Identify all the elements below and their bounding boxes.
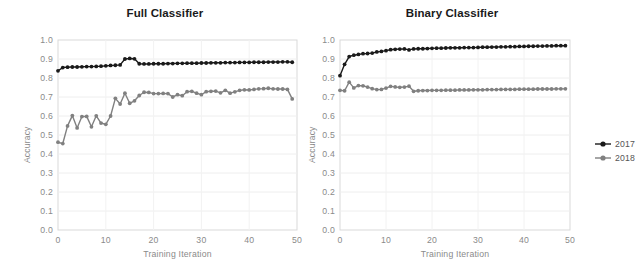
data-point	[499, 88, 503, 92]
data-point	[204, 90, 208, 94]
data-point	[554, 87, 558, 91]
data-point	[214, 61, 218, 65]
data-point	[435, 46, 439, 50]
data-point	[104, 64, 108, 68]
y-axis-tick-full: 0.0	[31, 225, 53, 235]
data-point	[550, 87, 554, 91]
data-point	[347, 55, 351, 59]
x-axis-tick-binary: 50	[560, 235, 580, 245]
data-point	[94, 65, 98, 69]
y-axis-tick-binary: 0.0	[313, 225, 335, 235]
data-point	[439, 46, 443, 50]
y-axis-tick-full: 0.5	[31, 130, 53, 140]
data-point	[559, 87, 563, 91]
legend-item-2018[interactable]: 2018	[594, 151, 641, 165]
data-point	[490, 88, 494, 92]
data-point	[223, 61, 227, 65]
data-point	[564, 87, 568, 91]
data-point	[156, 62, 160, 66]
data-point	[352, 53, 356, 57]
data-point	[412, 47, 416, 51]
data-point	[228, 61, 232, 65]
data-point	[527, 87, 531, 91]
data-point	[161, 62, 165, 66]
legend-item-2017[interactable]: 2017	[594, 137, 641, 151]
data-point	[171, 62, 175, 66]
x-axis-tick-binary: 30	[468, 235, 488, 245]
data-point	[200, 61, 204, 65]
data-point	[518, 45, 522, 49]
data-point	[281, 87, 285, 91]
data-point	[262, 87, 266, 91]
data-point	[142, 62, 146, 66]
data-point	[462, 46, 466, 50]
data-point	[252, 60, 256, 64]
data-point	[527, 44, 531, 48]
y-axis-tick-full: 0.3	[31, 168, 53, 178]
data-point	[75, 126, 79, 130]
data-point	[142, 90, 146, 94]
data-point	[90, 65, 94, 69]
data-point	[133, 57, 137, 61]
data-point	[109, 114, 113, 118]
data-point	[407, 84, 411, 88]
data-point	[472, 88, 476, 92]
data-point	[61, 142, 65, 146]
data-point	[412, 89, 416, 93]
data-point	[257, 60, 261, 64]
data-point	[243, 61, 247, 65]
y-axis-tick-full: 0.6	[31, 111, 53, 121]
data-point	[85, 114, 89, 118]
data-point	[504, 45, 508, 49]
data-point	[109, 64, 113, 68]
data-point	[439, 88, 443, 92]
data-point	[190, 61, 194, 65]
data-point	[458, 88, 462, 92]
data-point	[545, 44, 549, 48]
chart-title-binary-classifier: Binary Classifier	[300, 7, 592, 19]
data-point	[156, 92, 160, 96]
x-axis-tick-full: 20	[144, 235, 164, 245]
data-point	[70, 114, 74, 118]
data-point	[444, 46, 448, 50]
data-point	[85, 65, 89, 69]
data-point	[209, 89, 213, 93]
data-point	[128, 101, 132, 105]
data-point	[495, 88, 499, 92]
legend-marker-icon	[594, 153, 612, 163]
data-point	[113, 63, 117, 67]
y-axis-tick-binary: 0.6	[313, 111, 335, 121]
data-point	[449, 46, 453, 50]
data-point	[495, 45, 499, 49]
data-point	[531, 87, 535, 91]
data-point	[271, 87, 275, 91]
data-point	[276, 60, 280, 64]
data-point	[228, 91, 232, 95]
data-point	[137, 94, 141, 98]
data-point	[161, 91, 165, 95]
data-point	[209, 61, 213, 65]
x-axis-label-binary-classifier: Training Iteration	[340, 249, 570, 259]
data-point	[384, 86, 388, 90]
x-axis-tick-binary: 0	[330, 235, 350, 245]
data-point	[513, 88, 517, 92]
figure-container: Full Classifier Accuracy Training Iterat…	[0, 0, 641, 278]
data-point	[180, 94, 184, 98]
data-point	[233, 61, 237, 65]
x-axis-tick-full: 10	[96, 235, 116, 245]
data-point	[247, 61, 251, 65]
data-point	[416, 89, 420, 93]
data-point	[467, 88, 471, 92]
y-axis-tick-binary: 0.7	[313, 92, 335, 102]
data-point	[407, 48, 411, 52]
x-axis-tick-binary: 40	[514, 235, 534, 245]
data-point	[147, 91, 151, 95]
data-point	[104, 122, 108, 126]
data-point	[223, 88, 227, 92]
data-point	[75, 65, 79, 69]
data-point	[152, 62, 156, 66]
data-point	[550, 44, 554, 48]
y-axis-tick-full: 0.1	[31, 206, 53, 216]
data-point	[123, 57, 127, 61]
data-point	[361, 52, 365, 56]
